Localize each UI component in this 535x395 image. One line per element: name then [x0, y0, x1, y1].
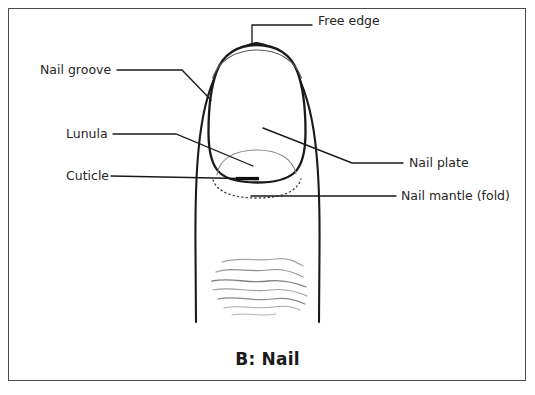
label-nail-plate: Nail plate: [409, 157, 469, 170]
figure-caption: B: Nail: [0, 349, 535, 369]
leader-free-edge: [252, 25, 312, 44]
label-cuticle: Cuticle: [66, 170, 109, 183]
leader-nail-groove: [117, 70, 211, 100]
figure-root: Free edge Nail groove Lunula Cuticle Nai…: [0, 0, 535, 395]
label-nail-groove: Nail groove: [40, 64, 111, 77]
label-nail-mantle-fold: Nail mantle (fold): [401, 190, 510, 203]
leader-cuticle: [111, 176, 240, 179]
label-free-edge: Free edge: [318, 15, 380, 28]
skin-wrinkles: [212, 259, 307, 315]
label-lunula: Lunula: [66, 128, 108, 141]
